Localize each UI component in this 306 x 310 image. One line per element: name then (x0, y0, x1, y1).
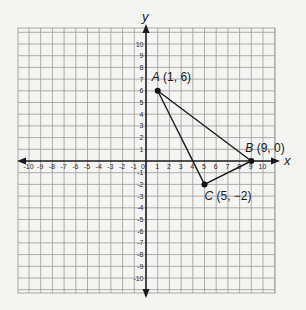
x-tick-label: -4 (96, 163, 102, 170)
y-tick-label: -1 (137, 169, 143, 176)
x-tick-label: -3 (107, 163, 113, 170)
x-tick-label: 9 (249, 163, 253, 170)
x-tick-label: 2 (167, 163, 171, 170)
x-tick-label: -6 (72, 163, 78, 170)
vertex-b (248, 158, 254, 164)
y-tick-label: -9 (137, 263, 143, 270)
x-tick-label: -10 (23, 163, 33, 170)
y-tick-label: 2 (140, 134, 144, 141)
vertex-name: B (245, 141, 253, 155)
vertex-coordinates: (1, 6) (160, 70, 191, 84)
x-tick-label: -9 (37, 163, 43, 170)
vertex-label-a: A (1, 6) (151, 70, 191, 84)
x-tick-label: 1 (155, 163, 159, 170)
coordinate-plane: xy -10-9-8-7-6-5-4-3-2-10123456789101098… (0, 0, 306, 310)
y-tick-label: -6 (137, 228, 143, 235)
y-tick-label: -7 (137, 239, 143, 246)
x-tick-label: 3 (179, 163, 183, 170)
x-tick-label: 7 (225, 163, 229, 170)
y-tick-label: 7 (140, 76, 144, 83)
x-tick-label: -1 (131, 163, 137, 170)
x-tick-label: 5 (202, 163, 206, 170)
vertex-name: A (151, 70, 160, 84)
vertex-label-b: B (9, 0) (245, 141, 284, 155)
y-tick-label: -5 (137, 216, 143, 223)
x-tick-label: -2 (119, 163, 125, 170)
y-tick-label: 3 (140, 122, 144, 129)
y-tick-label: -10 (133, 275, 143, 282)
y-tick-label: 4 (140, 111, 144, 118)
x-tick-label: -7 (60, 163, 66, 170)
vertex-a (155, 88, 161, 94)
y-tick-label: 8 (140, 64, 144, 71)
y-tick-label: 9 (140, 52, 144, 59)
y-tick-label: -2 (137, 181, 143, 188)
y-tick-label: 10 (136, 41, 144, 48)
x-tick-label: 10 (259, 163, 267, 170)
y-tick-label: 1 (140, 146, 144, 153)
y-tick-label: 6 (140, 87, 144, 94)
vertex-name: C (205, 189, 214, 203)
vertex-coordinates: (5, −2) (213, 189, 251, 203)
y-tick-label: -3 (137, 193, 143, 200)
vertex-label-c: C (5, −2) (205, 189, 252, 203)
y-axis-label: y (141, 9, 150, 24)
vertex-c (202, 181, 208, 187)
x-tick-label: -5 (84, 163, 90, 170)
x-tick-label: 6 (214, 163, 218, 170)
x-tick-label: -8 (49, 163, 55, 170)
vertex-coordinates: (9, 0) (253, 141, 284, 155)
y-tick-label: 5 (140, 99, 144, 106)
y-tick-label: -8 (137, 251, 143, 258)
x-axis-label: x (283, 153, 291, 168)
y-tick-label: -4 (137, 204, 143, 211)
